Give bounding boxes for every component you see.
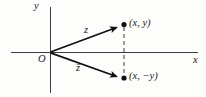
y-axis-label: y (34, 1, 39, 12)
point-xy-dot (121, 22, 126, 27)
vector-z-label: z (84, 25, 88, 36)
vector-zbar-label: z̄ (76, 63, 80, 74)
point-x-negy-label: (x, −y) (129, 71, 158, 82)
origin-label: O (38, 54, 46, 65)
vector-zbar-line (51, 53, 117, 77)
point-x-negy-dot (121, 75, 126, 80)
complex-conjugate-diagram: y x O z z̄ (x, y) (x, −y) (0, 0, 206, 97)
diagram-canvas (0, 0, 206, 97)
point-xy-label: (x, y) (129, 18, 151, 29)
x-axis-label: x (193, 55, 198, 66)
